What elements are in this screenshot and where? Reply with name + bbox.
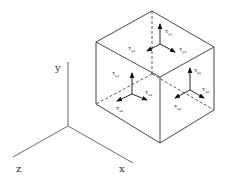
cube-bottom-right-edge — [160, 110, 214, 143]
stress-cube-diagram: y z x τyy τyz τyx τzy τzz τzx — [0, 0, 232, 179]
stress-label-right-up: τxy — [194, 66, 202, 75]
cube-hidden-edges — [96, 11, 214, 110]
arrow-left-down-icon — [175, 90, 190, 98]
hidden-left-edge — [96, 74, 152, 104]
diagram-svg: y z x τyy τyz τyx τzy τzz τzx — [0, 0, 232, 179]
stress-label-top-normal: τyy — [165, 27, 173, 36]
top-face-stresses: τyy τyz τyx — [128, 24, 186, 54]
cube-bottom-left-edge — [96, 104, 160, 143]
x-axis-label: x — [119, 163, 125, 174]
y-axis-label: y — [54, 62, 61, 73]
stress-label-left-right: τzx — [145, 88, 152, 97]
arrow-left-down-icon — [147, 44, 160, 51]
stress-label-top-right: τyx — [179, 45, 186, 54]
cube-edges — [96, 11, 214, 143]
stress-label-top-left: τyz — [128, 44, 135, 53]
stress-label-right-left: τxz — [174, 102, 181, 111]
arrow-left-down-icon — [117, 94, 132, 101]
stress-label-left-up: τzy — [112, 69, 120, 78]
z-axis-label: z — [16, 163, 21, 174]
z-axis-line — [13, 126, 68, 157]
left-face-stresses: τzy τzz τzx — [112, 69, 152, 113]
stress-label-right-normal: τxx — [202, 85, 209, 94]
coordinate-axes: y z x — [13, 62, 133, 174]
arrow-right-down-icon — [160, 44, 175, 52]
stress-label-left-normal: τzz — [116, 104, 123, 113]
x-axis-line — [68, 126, 133, 163]
